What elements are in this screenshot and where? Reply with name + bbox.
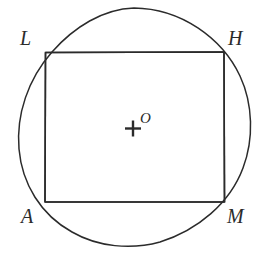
geometry-figure: L H A M O <box>0 0 262 256</box>
circumscribed-circle <box>19 8 251 246</box>
square-edge-left <box>45 53 46 203</box>
center-label-o: O <box>140 111 151 126</box>
vertex-label-m: M <box>227 206 244 226</box>
vertex-label-l: L <box>20 28 32 48</box>
square-edge-top <box>46 52 225 53</box>
center-plus-icon <box>125 121 141 137</box>
square-edge-right <box>224 52 225 202</box>
geometry-canvas <box>0 0 262 256</box>
vertex-label-h: H <box>228 28 243 48</box>
inscribed-square <box>45 52 225 202</box>
vertex-label-a: A <box>21 206 34 226</box>
